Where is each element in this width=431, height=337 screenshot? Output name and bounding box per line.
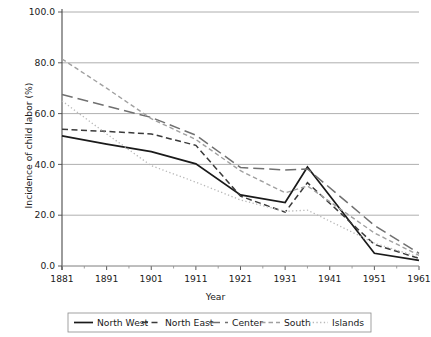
legend-label: North East	[165, 317, 214, 328]
legend-label: Center	[232, 317, 263, 328]
series-line	[62, 101, 419, 257]
x-tick-label: 1881	[50, 273, 73, 284]
data-series-lines	[62, 59, 419, 260]
y-tick-label: 0.0	[40, 260, 55, 271]
axis-spines	[62, 9, 419, 270]
y-tick-label: 80.0	[35, 57, 56, 68]
x-tick-label: 1901	[140, 273, 163, 284]
x-tick-label: 1921	[229, 273, 252, 284]
legend-label: North West	[97, 317, 149, 328]
x-tick-label: 1931	[273, 273, 296, 284]
series-line	[62, 136, 419, 260]
chart-legend: North WestNorth EastCenterSouthIslands	[68, 313, 371, 332]
x-tick-label: 1911	[184, 273, 207, 284]
y-axis-ticks: 0.020.040.060.080.0100.0	[29, 6, 62, 271]
grid-lines	[62, 12, 419, 266]
x-tick-label: 1941	[318, 273, 341, 284]
y-tick-label: 100.0	[29, 6, 55, 17]
x-axis-ticks: 188118911901191119211931194119511961	[50, 266, 430, 284]
chart-figure: Incidence of child labor (%) Year 0.020.…	[0, 0, 431, 337]
x-tick-label: 1961	[407, 273, 430, 284]
legend-label: South	[284, 317, 311, 328]
legend-label: Islands	[332, 317, 364, 328]
y-tick-label: 20.0	[35, 209, 56, 220]
series-line	[62, 59, 419, 255]
y-tick-label: 40.0	[35, 159, 56, 170]
y-tick-label: 60.0	[35, 108, 56, 119]
x-tick-label: 1951	[363, 273, 386, 284]
series-line	[62, 95, 419, 254]
x-tick-label: 1891	[95, 273, 118, 284]
line-chart-plot: 0.020.040.060.080.0100.0 188118911901191…	[0, 0, 431, 337]
